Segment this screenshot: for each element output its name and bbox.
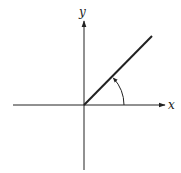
y-axis-label: y (78, 5, 86, 19)
x-axis-label: x (168, 98, 175, 112)
coordinate-diagram: x y (0, 0, 181, 173)
terminal-ray (84, 36, 152, 105)
angle-arc-icon (114, 78, 125, 105)
